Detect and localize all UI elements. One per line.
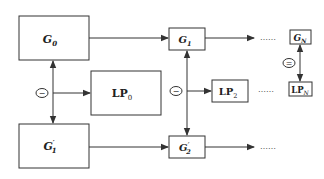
ellipsis-bottom: …… bbox=[260, 142, 276, 151]
svg-text:=: = bbox=[286, 59, 293, 68]
node-lp2: LP2 bbox=[212, 80, 248, 102]
node-lpn: LPN bbox=[289, 82, 312, 96]
svg-text:G′1: G′1 bbox=[43, 138, 56, 155]
node-g0: G0 bbox=[19, 16, 89, 60]
node-gn: GN bbox=[290, 30, 311, 44]
ellipsis-top: …… bbox=[260, 33, 276, 42]
svg-text:−: − bbox=[173, 87, 180, 96]
diagram-canvas: G0 G′1 LP0 G1 LP2 G′2 GN LPN …… …… bbox=[0, 0, 324, 179]
svg-text:−: − bbox=[39, 89, 46, 98]
ellipsis-middle: …… bbox=[258, 85, 274, 94]
node-g1-prime: G′1 bbox=[19, 124, 89, 168]
node-lp0: LP0 bbox=[91, 71, 161, 115]
node-g1: G1 bbox=[169, 28, 205, 50]
node-g2-prime: G′2 bbox=[169, 136, 205, 158]
